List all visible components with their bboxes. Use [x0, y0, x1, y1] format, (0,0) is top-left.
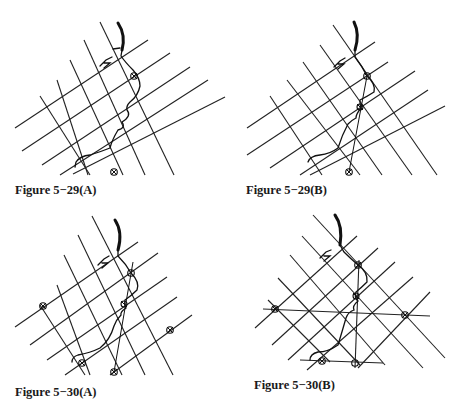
- grid-lines: [15, 216, 192, 375]
- eye-mark: [320, 250, 331, 261]
- grid-profile-diagram-5-30b: [230, 200, 459, 375]
- figure-5-29a: Figure 5−29(A): [0, 0, 230, 200]
- eye-mark: [98, 256, 109, 268]
- figure-caption: Figure 5−29(A): [15, 183, 97, 198]
- grid-profile-diagram-5-30a: [0, 200, 230, 380]
- figure-5-30b: Figure 5−30(B): [230, 200, 459, 402]
- grid-lines: [247, 25, 445, 175]
- landmark-point-bottom-left: [79, 360, 86, 367]
- figure-caption: Figure 5−30(B): [254, 378, 335, 393]
- grid-lines: [255, 215, 445, 370]
- grid-lines: [15, 22, 225, 175]
- landmark-point-upper: [355, 262, 362, 269]
- figure-5-29b: Figure 5−29(B): [230, 0, 459, 200]
- grid-profile-diagram-5-29a: [0, 0, 230, 180]
- nose-stroke: [354, 22, 357, 50]
- landmark-point-lower: [111, 169, 118, 176]
- landmark-point-upper: [131, 73, 138, 80]
- figure-caption: Figure 5−29(B): [246, 183, 327, 198]
- figure-5-30a: Figure 5−30(A): [0, 200, 230, 402]
- grid-profile-diagram-5-29b: [230, 0, 459, 180]
- nose-stroke: [115, 220, 120, 250]
- figure-caption: Figure 5−30(A): [15, 385, 97, 400]
- face-profile: [75, 50, 140, 167]
- face-profile: [72, 250, 138, 362]
- nose-stroke: [118, 23, 123, 50]
